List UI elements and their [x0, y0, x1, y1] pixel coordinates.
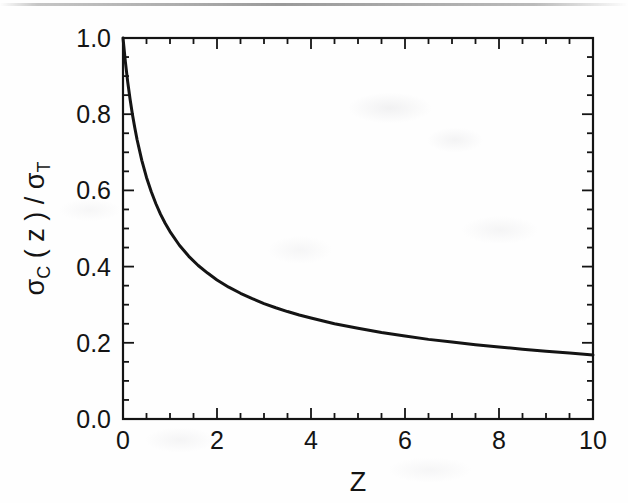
plot-frame [123, 38, 593, 419]
x-axis-tick-label: 2 [210, 426, 224, 454]
y-axis-title: σC ( z ) / σT [20, 162, 54, 296]
y-axis-tick-label: 0.0 [76, 405, 111, 433]
x-axis-title: Z [350, 467, 367, 497]
y-axis-tick-label: 1.0 [76, 24, 111, 52]
y-axis-tick-label: 0.4 [76, 253, 111, 281]
figure-container: 02468100.00.20.40.60.81.0ZσC ( z ) / σT [0, 0, 628, 503]
y-axis-title-text: σC ( z ) / σT [20, 162, 54, 296]
x-axis-tick-label: 4 [304, 426, 318, 454]
plot-area: 02468100.00.20.40.60.81.0ZσC ( z ) / σT [0, 0, 628, 503]
x-axis-tick-label: 0 [116, 426, 130, 454]
x-axis-tick-label: 6 [398, 426, 412, 454]
y-axis-tick-label: 0.2 [76, 329, 111, 357]
x-axis-tick-label: 8 [492, 426, 506, 454]
y-axis-tick-label: 0.6 [76, 176, 111, 204]
y-axis-tick-label: 0.8 [76, 100, 111, 128]
x-axis-tick-label: 10 [579, 426, 607, 454]
data-curve [123, 38, 593, 355]
